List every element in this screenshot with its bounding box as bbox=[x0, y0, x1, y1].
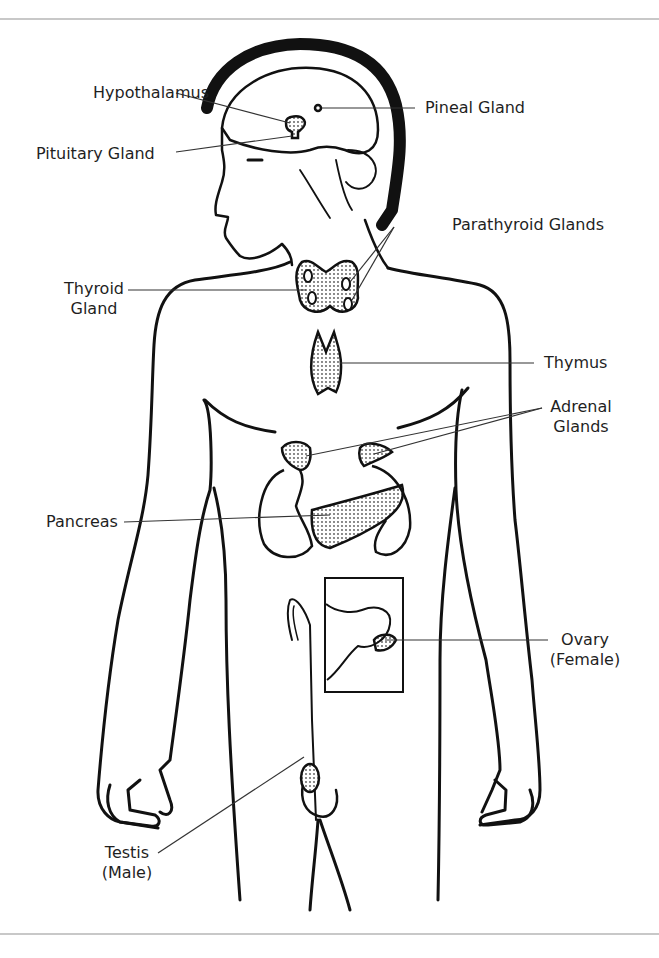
adrenal-right-shape bbox=[359, 444, 392, 466]
kidney-left bbox=[259, 470, 312, 557]
label-pineal-gland: Pineal Gland bbox=[425, 98, 525, 118]
label-adrenal-glands: Adrenal Glands bbox=[546, 397, 616, 437]
brain-outline bbox=[222, 68, 378, 153]
thyroid-line2: Gland bbox=[62, 299, 126, 319]
pancreas-shape bbox=[312, 485, 403, 548]
hypothalamus-pituitary-shape bbox=[286, 116, 305, 138]
adrenal-line2: Glands bbox=[546, 417, 616, 437]
ovary-line1: Ovary bbox=[544, 630, 626, 650]
testis-line2: (Male) bbox=[96, 863, 158, 883]
label-pituitary-gland: Pituitary Gland bbox=[36, 144, 155, 164]
adrenal-line1: Adrenal bbox=[546, 397, 616, 417]
ear bbox=[346, 150, 376, 189]
thyroid-line1: Thyroid bbox=[62, 279, 126, 299]
thymus-shape bbox=[311, 332, 341, 394]
left-arm-outer bbox=[98, 262, 290, 828]
label-testis: Testis (Male) bbox=[96, 843, 158, 883]
label-parathyroid-glands: Parathyroid Glands bbox=[452, 215, 604, 235]
torso-right bbox=[438, 488, 455, 900]
testis-line1: Testis bbox=[96, 843, 158, 863]
ovary-line2: (Female) bbox=[544, 650, 626, 670]
label-ovary: Ovary (Female) bbox=[544, 630, 626, 670]
right-arm-outer bbox=[388, 268, 540, 825]
pineal-shape bbox=[315, 105, 321, 111]
label-thymus: Thymus bbox=[544, 353, 607, 373]
testis-shape bbox=[301, 764, 319, 792]
label-thyroid-gland: Thyroid Gland bbox=[62, 279, 126, 319]
torso-left bbox=[214, 488, 240, 900]
left-hand bbox=[108, 780, 159, 826]
label-pancreas: Pancreas bbox=[46, 512, 118, 532]
label-hypothalamus: Hypothalamus bbox=[93, 83, 209, 103]
leader-lines bbox=[124, 93, 548, 853]
left-arm-inner bbox=[160, 400, 211, 814]
right-hand bbox=[480, 780, 533, 825]
skull-outline bbox=[207, 44, 400, 225]
right-arm-inner bbox=[456, 390, 500, 812]
